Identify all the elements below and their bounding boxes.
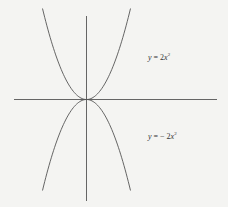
lower-curve-label: y = − 2x2 [148,131,177,141]
label-eq: = − 2 [152,132,171,141]
parabola-plot [0,0,228,207]
label-exp: 2 [174,131,177,136]
upper-curve-label: y = 2x2 [148,52,170,62]
label-exp: 2 [168,52,171,57]
label-eq: = 2 [152,53,165,62]
